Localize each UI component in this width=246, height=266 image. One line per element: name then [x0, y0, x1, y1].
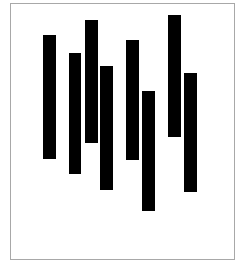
bar-6 [142, 91, 155, 211]
plot-area [11, 4, 234, 259]
plot-frame [10, 3, 235, 260]
bar-1 [43, 35, 56, 159]
figure-root [0, 0, 246, 266]
bar-8 [184, 73, 197, 192]
bar-4 [100, 66, 113, 190]
bar-7 [168, 15, 181, 137]
bar-3 [85, 20, 98, 143]
bar-2 [69, 53, 81, 174]
bar-5 [126, 40, 139, 160]
